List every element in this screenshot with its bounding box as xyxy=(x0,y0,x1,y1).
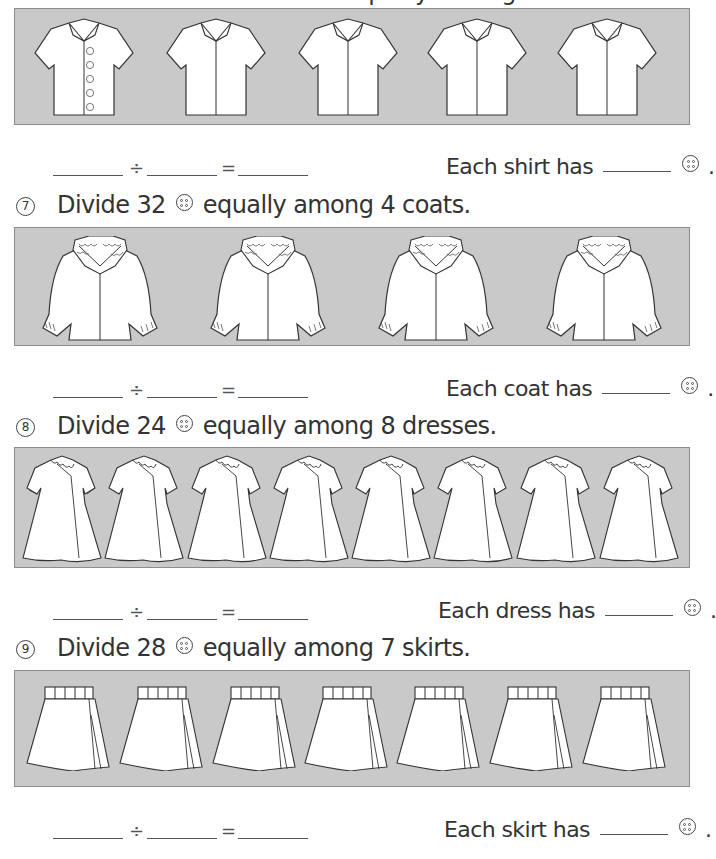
dress-5 xyxy=(350,454,432,564)
problem-9-equation-row: ÷ = Each skirt has. xyxy=(0,815,702,845)
dress-icon xyxy=(268,454,350,564)
button-icon xyxy=(679,818,696,835)
skirt-5 xyxy=(395,685,481,771)
shirt-icon xyxy=(293,15,403,119)
dress-icon xyxy=(21,454,103,564)
coat-icon xyxy=(537,236,667,342)
answer-prefix: Each shirt has xyxy=(446,154,593,179)
shirt-1-with-buttons xyxy=(29,15,139,119)
divisor-blank[interactable] xyxy=(147,619,217,620)
button-icon xyxy=(681,377,698,394)
skirt-icon xyxy=(395,685,481,771)
coat-icon xyxy=(201,236,331,342)
quotient-blank[interactable] xyxy=(238,619,308,620)
skirt-3 xyxy=(211,685,297,771)
dress-icon xyxy=(515,454,597,564)
heading-text-after: equally among 4 coats. xyxy=(203,191,471,219)
shirt-5 xyxy=(552,15,662,119)
dividend-blank[interactable] xyxy=(53,175,123,176)
coat-icon xyxy=(369,236,499,342)
skirt-7 xyxy=(581,685,667,771)
button-icon xyxy=(176,194,193,211)
button-icon xyxy=(176,415,193,432)
skirt-1 xyxy=(25,685,111,771)
answer-period: . xyxy=(708,154,714,179)
heading-text-before: Divide 28 xyxy=(57,634,166,662)
answer-prefix: Each skirt has xyxy=(444,817,590,842)
shirt-3 xyxy=(293,15,403,119)
skirt-6 xyxy=(488,685,574,771)
problem-6-equation-row: ÷ = Each shirt has. xyxy=(0,152,702,182)
problem-7-equation-row: ÷ = Each coat has. xyxy=(0,374,702,404)
dress-3 xyxy=(186,454,268,564)
answer-blank[interactable] xyxy=(602,392,670,394)
divisor-blank[interactable] xyxy=(147,838,217,839)
problem-8-heading: 8Divide 24 equally among 8 dresses. xyxy=(16,412,497,440)
shirt-icon xyxy=(422,15,532,119)
answer-period: . xyxy=(710,598,716,623)
skirt-4 xyxy=(303,685,389,771)
dresses-panel xyxy=(14,447,690,568)
skirt-icon xyxy=(581,685,667,771)
divisor-blank[interactable] xyxy=(147,175,217,176)
dress-2 xyxy=(103,454,185,564)
dress-1 xyxy=(21,454,103,564)
skirt-icon xyxy=(25,685,111,771)
coat-3 xyxy=(369,236,499,342)
answer-blank[interactable] xyxy=(600,833,668,835)
answer-blank[interactable] xyxy=(603,170,671,172)
dress-icon xyxy=(350,454,432,564)
problem-6-heading-text: Divide 20 buttons equally among 5 shirts… xyxy=(135,0,614,6)
button-icon xyxy=(682,155,699,172)
dress-icon xyxy=(103,454,185,564)
heading-text-after: equally among 7 skirts. xyxy=(203,634,471,662)
shirt-2 xyxy=(161,15,271,119)
answer-period: . xyxy=(705,817,711,842)
answer-period: . xyxy=(707,376,713,401)
shirt-4 xyxy=(422,15,532,119)
dividend-blank[interactable] xyxy=(53,838,123,839)
divisor-blank[interactable] xyxy=(147,397,217,398)
button-icon xyxy=(176,637,193,654)
dress-icon xyxy=(432,454,514,564)
shirt-icon xyxy=(29,15,139,119)
coat-4 xyxy=(537,236,667,342)
heading-text-before: Divide 24 xyxy=(57,412,166,440)
equals-sign: = xyxy=(221,820,236,841)
quotient-blank[interactable] xyxy=(238,175,308,176)
equals-sign: = xyxy=(221,601,236,622)
answer-sentence: Each dress has. xyxy=(438,598,716,623)
problem-number-9: 9 xyxy=(16,640,35,659)
shirt-icon xyxy=(552,15,662,119)
coat-1 xyxy=(33,236,163,342)
dress-7 xyxy=(515,454,597,564)
equals-sign: = xyxy=(221,379,236,400)
dress-6 xyxy=(432,454,514,564)
skirt-icon xyxy=(303,685,389,771)
divide-sign: ÷ xyxy=(129,820,144,841)
quotient-blank[interactable] xyxy=(238,397,308,398)
answer-blank[interactable] xyxy=(605,614,673,616)
problem-9-heading: 9Divide 28 equally among 7 skirts. xyxy=(16,634,470,662)
coat-icon xyxy=(33,236,163,342)
skirt-2 xyxy=(118,685,204,771)
dividend-blank[interactable] xyxy=(53,397,123,398)
problem-number-7: 7 xyxy=(16,197,35,216)
coat-2 xyxy=(201,236,331,342)
skirt-icon xyxy=(118,685,204,771)
divide-sign: ÷ xyxy=(129,157,144,178)
dress-icon xyxy=(186,454,268,564)
dividend-blank[interactable] xyxy=(53,619,123,620)
divide-sign: ÷ xyxy=(129,601,144,622)
shirt-icon xyxy=(161,15,271,119)
heading-text-after: equally among 8 dresses. xyxy=(203,412,497,440)
answer-prefix: Each coat has xyxy=(446,376,592,401)
answer-sentence: Each shirt has. xyxy=(446,154,715,179)
problem-8-equation-row: ÷ = Each dress has. xyxy=(0,596,702,626)
skirt-icon xyxy=(211,685,297,771)
quotient-blank[interactable] xyxy=(238,838,308,839)
problem-number-8: 8 xyxy=(16,418,35,437)
skirt-icon xyxy=(488,685,574,771)
button-icon xyxy=(684,599,701,616)
skirts-panel xyxy=(14,670,690,787)
